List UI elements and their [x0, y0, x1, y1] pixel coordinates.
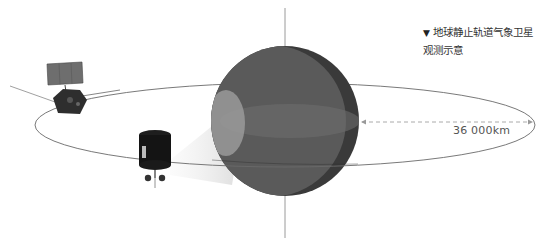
satellite-cylinder-icon	[139, 130, 171, 188]
caption-line-2: 观测示意	[423, 42, 533, 59]
figure-caption: ▼地球静止轨道气象卫星 观测示意	[423, 24, 533, 59]
satellite-solar-panel-icon	[10, 62, 120, 114]
distance-label: 36 000km	[453, 124, 510, 137]
caption-line-1: ▼地球静止轨道气象卫星	[423, 24, 533, 42]
triangle-marker-icon: ▼	[423, 28, 430, 38]
geo-satellite-diagram: ▼地球静止轨道气象卫星 观测示意 36 000km	[0, 0, 543, 246]
